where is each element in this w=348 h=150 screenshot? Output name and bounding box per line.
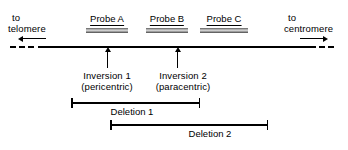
deletion-2-span-bar [110, 124, 268, 126]
probe-a-label: Probe A [90, 13, 124, 26]
inversion-1-arrow-icon [107, 51, 108, 68]
probe-b-label: Probe B [150, 13, 184, 26]
inversion-2-arrow-icon [177, 51, 178, 68]
deletion-2-label: Deletion 2 [189, 128, 232, 139]
probe-c-bar [200, 28, 248, 33]
probe-b-bar [146, 28, 188, 33]
centromere-label-line1: to [288, 13, 296, 24]
deletion-1-label: Deletion 1 [111, 106, 154, 117]
centromere-direction-arrow-icon [300, 38, 324, 39]
inversion-1-name: Inversion 1 [83, 71, 131, 82]
inversion-1-type: (pericentric) [81, 82, 132, 93]
chromosome-right-dashed-segment [310, 46, 338, 48]
telomere-direction-arrow-icon [22, 38, 46, 39]
telomere-label-line1: to [12, 13, 20, 24]
centromere-label-line2: centromere [284, 24, 333, 35]
probe-c-label: Probe C [207, 13, 242, 26]
chromosome-diagram: to telomere to centromere Probe A Probe … [0, 0, 348, 150]
telomere-label-line2: telomere [8, 24, 46, 35]
inversion-2-type: (paracentric) [156, 82, 211, 93]
deletion-1-span-bar [71, 102, 200, 104]
inversion-2-name: Inversion 2 [159, 71, 207, 82]
probe-a-bar [86, 28, 128, 33]
chromosome-left-dashed-segment [10, 46, 38, 48]
